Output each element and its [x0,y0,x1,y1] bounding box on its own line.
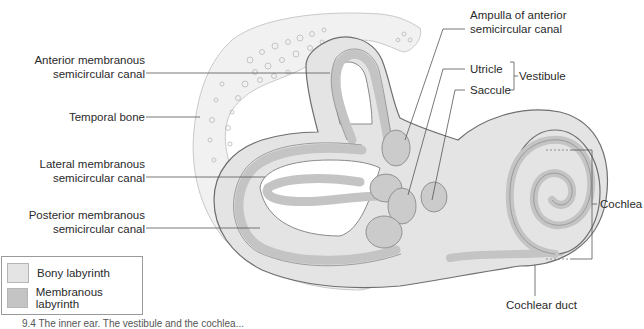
ampulla-anterior [382,130,410,166]
label-cochlea: Cochlea [600,197,642,211]
label-line: Cochlea [600,198,642,210]
label-line: Lateral membranous [40,157,145,171]
label-saccule: Saccule [470,83,511,97]
label-line: semicircular canal [40,171,145,185]
legend-swatch-membranous [7,288,28,308]
label-line: Ampulla of anterior [470,8,567,22]
label-cochlear-duct: Cochlear duct [506,298,577,312]
label-posterior-membranous-semicircular-canal: Posterior membranous semicircular canal [29,208,145,236]
label-line: Saccule [470,84,511,96]
legend: Bony labyrinth Membranous labyrinth [1,256,143,315]
label-lateral-membranous-semicircular-canal: Lateral membranous semicircular canal [40,157,145,185]
label-line: semicircular canal [34,67,145,81]
saccule [421,182,447,212]
legend-item-membranous-labyrinth: Membranous labyrinth [7,288,142,308]
label-line: Temporal bone [69,110,145,124]
label-temporal-bone: Temporal bone [69,110,145,124]
label-line: semicircular canal [29,222,145,236]
label-line: Vestibule [519,70,566,82]
figure-caption: 9.4 The inner ear. The vestibule and the… [22,318,244,329]
label-anterior-membranous-semicircular-canal: Anterior membranous semicircular canal [34,53,145,81]
label-line: semicircular canal [470,22,567,36]
label-ampulla-of-anterior-semicircular-canal: Ampulla of anterior semicircular canal [470,8,567,36]
ampulla-posterior [366,216,402,248]
legend-label: Membranous labyrinth [36,286,142,310]
label-line: Posterior membranous [29,208,145,222]
legend-swatch-bony [7,263,29,283]
label-line: Utricle [470,63,503,75]
label-utricle: Utricle [470,62,503,76]
legend-label: Bony labyrinth [37,267,110,279]
label-vestibule: Vestibule [519,69,566,83]
legend-item-bony-labyrinth: Bony labyrinth [7,263,110,283]
label-line: Anterior membranous [34,53,145,67]
label-line: Cochlear duct [506,299,577,311]
cochlea [510,130,600,254]
